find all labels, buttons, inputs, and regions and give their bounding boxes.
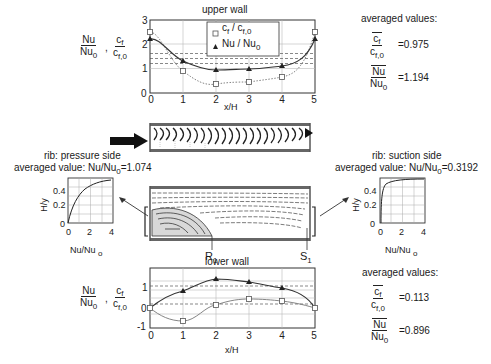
svg-text:1: 1 [180, 94, 186, 105]
svg-text:5: 5 [311, 94, 317, 105]
svg-text:0: 0 [370, 219, 375, 229]
svg-text:0: 0 [378, 227, 383, 237]
pointer-arrow-left-icon [118, 196, 150, 218]
rib-suction-chart: 0.40.20 024 [356, 172, 436, 244]
svg-text:2: 2 [213, 330, 219, 341]
upper-xlabel: x/H [224, 102, 238, 112]
pointer-arrow-right-icon [318, 196, 350, 218]
upper-ylabel: Nu Nu0 , cf cf,0 [80, 34, 142, 74]
rib-pressure-title: rib: pressure side [44, 150, 121, 161]
svg-text:0: 0 [66, 227, 71, 237]
svg-text:3: 3 [246, 94, 252, 105]
svg-text:-1: -1 [137, 321, 146, 332]
flow-field-lower [140, 182, 325, 257]
svg-text:4: 4 [421, 227, 426, 237]
rib-suction-title: rib: suction side [372, 150, 441, 161]
svg-text:0: 0 [141, 88, 147, 99]
flow-field-upper [148, 120, 316, 154]
svg-text:5: 5 [311, 330, 317, 341]
upper-averaged-title: averaged values: [361, 13, 437, 24]
svg-text:2: 2 [142, 39, 148, 50]
svg-text:3: 3 [142, 15, 148, 26]
svg-text:0.2: 0.2 [53, 200, 66, 210]
lower-wall-chart: 10-1 012 345 [136, 264, 326, 346]
svg-text:0.2: 0.2 [364, 200, 377, 210]
legend-cf: cf / cf,0 [222, 22, 251, 33]
svg-text:2: 2 [213, 94, 219, 105]
inflow-arrow-icon [110, 133, 150, 149]
svg-text:4: 4 [109, 227, 114, 237]
svg-text:0: 0 [141, 303, 147, 314]
rib-suction-xlabel: Nu/Nu o [385, 245, 417, 255]
svg-text:0: 0 [148, 94, 154, 105]
rib-pressure-ylabel: H/y [39, 198, 49, 212]
svg-text:0.4: 0.4 [364, 186, 377, 196]
svg-text:1: 1 [142, 282, 148, 293]
rib-pressure-chart: 0.40.20 024 [42, 172, 122, 244]
svg-text:3: 3 [246, 330, 252, 341]
svg-text:4: 4 [279, 330, 285, 341]
svg-text:0: 0 [60, 219, 65, 229]
svg-text:1: 1 [142, 63, 148, 74]
legend-nu: Nu / Nu0 [222, 38, 260, 49]
lower-ylabel: Nu Nu0 , cf cf,0 [80, 285, 142, 325]
lower-xlabel: x/H [225, 345, 239, 355]
svg-text:2: 2 [399, 227, 404, 237]
svg-text:1: 1 [180, 330, 186, 341]
svg-text:0.4: 0.4 [53, 186, 66, 196]
lower-averaged-title: averaged values: [362, 267, 438, 278]
separation-point-s1: S1 [300, 250, 312, 262]
rib-suction-ylabel: H/y [351, 198, 361, 212]
svg-text:2: 2 [87, 227, 92, 237]
svg-text:0: 0 [148, 330, 154, 341]
rib-pressure-xlabel: Nu/Nu o [70, 245, 102, 255]
svg-text:4: 4 [279, 94, 285, 105]
